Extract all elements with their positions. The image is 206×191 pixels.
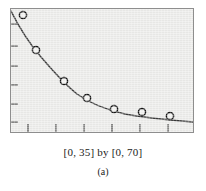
plot-svg bbox=[11, 9, 193, 132]
axis-range-caption: [0, 35] by [0, 70] bbox=[0, 146, 206, 158]
data-point bbox=[19, 11, 26, 18]
y-axis-ticks bbox=[11, 24, 18, 122]
data-point bbox=[166, 112, 173, 119]
data-point bbox=[60, 77, 67, 84]
data-point bbox=[110, 105, 117, 112]
data-point bbox=[32, 46, 39, 53]
figure-container: [0, 35] by [0, 70] (a) bbox=[0, 0, 206, 191]
x-axis-ticks bbox=[28, 124, 168, 132]
panel-label: (a) bbox=[0, 166, 206, 177]
data-point bbox=[83, 94, 90, 101]
fitted-curve bbox=[11, 11, 193, 122]
data-point bbox=[138, 108, 145, 115]
data-point-markers bbox=[19, 11, 173, 119]
plot-frame bbox=[10, 8, 194, 133]
